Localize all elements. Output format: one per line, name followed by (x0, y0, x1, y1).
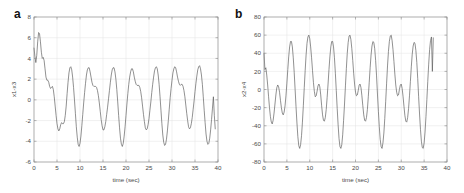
x-tick-label: 20 (123, 164, 130, 171)
y-tick-label: 2 (28, 75, 32, 82)
x-tick-label: 30 (398, 164, 405, 171)
y-tick-label: -60 (252, 140, 262, 147)
y-tick-label: -80 (252, 158, 262, 165)
y-axis-label: x2-x4 (240, 81, 247, 97)
x-tick-label: 35 (421, 164, 428, 171)
gridlines (34, 17, 218, 162)
x-tick-label: 10 (306, 164, 313, 171)
x-tick-label: 15 (100, 164, 107, 171)
y-tick-label: 8 (28, 13, 32, 20)
panel-b: b 0510152025303540-80-60-40-20020406080t… (232, 0, 464, 193)
x-axis-label: time (sec) (112, 176, 139, 183)
y-tick-label: -40 (252, 122, 262, 129)
y-tick-label: 6 (28, 34, 32, 41)
y-tick-label: 20 (254, 68, 261, 75)
x-tick-label: 20 (352, 164, 359, 171)
figure-container: a 0510152025303540-6-4-202468time (sec)x… (0, 0, 464, 193)
y-tick-label: -4 (25, 137, 31, 144)
y-tick-label: 60 (254, 31, 261, 38)
y-tick-label: -20 (252, 104, 262, 111)
x-tick-label: 40 (444, 164, 451, 171)
x-tick-label: 25 (375, 164, 382, 171)
data-series-line (34, 33, 215, 147)
y-tick-label: -2 (25, 117, 31, 124)
y-tick-label: 80 (254, 13, 261, 20)
x-tick-label: 5 (285, 164, 289, 171)
y-tick-label: -6 (25, 158, 31, 165)
y-axis-label: x1-x3 (10, 81, 17, 97)
plot-a-svg: 0510152025303540-6-4-202468time (sec)x1-… (0, 0, 232, 193)
y-tick-label: 40 (254, 49, 261, 56)
y-tick-label: 0 (28, 96, 32, 103)
x-tick-label: 15 (329, 164, 336, 171)
x-tick-label: 25 (146, 164, 153, 171)
y-tick-label: 4 (28, 55, 32, 62)
x-axis-label: time (sec) (342, 176, 369, 183)
axis-ticks: 0510152025303540-80-60-40-20020406080 (252, 13, 451, 171)
axis-ticks: 0510152025303540-6-4-202468 (25, 13, 222, 171)
x-tick-label: 5 (55, 164, 59, 171)
panel-a: a 0510152025303540-6-4-202468time (sec)x… (0, 0, 232, 193)
x-tick-label: 40 (215, 164, 222, 171)
x-tick-label: 0 (262, 164, 266, 171)
x-tick-label: 30 (169, 164, 176, 171)
x-tick-label: 35 (192, 164, 199, 171)
plot-b-svg: 0510152025303540-80-60-40-20020406080tim… (232, 0, 464, 193)
x-tick-label: 10 (77, 164, 84, 171)
data-series-line (264, 35, 433, 148)
y-tick-label: 0 (258, 86, 262, 93)
x-tick-label: 0 (32, 164, 36, 171)
